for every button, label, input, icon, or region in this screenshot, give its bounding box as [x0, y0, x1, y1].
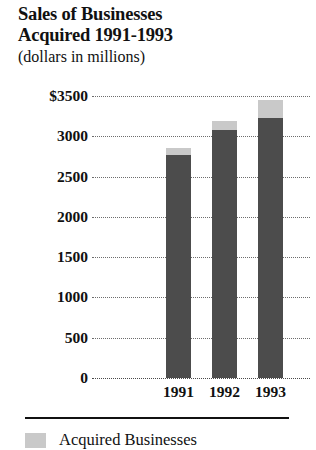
y-axis-tick: 0 — [0, 370, 88, 385]
footer-divider — [25, 417, 289, 419]
bar-segment-base-1992 — [212, 130, 237, 378]
y-axis-tick-label: 2500 — [10, 169, 88, 184]
y-axis-tick: 1500 — [0, 249, 88, 264]
y-axis-tick-label: 500 — [10, 330, 88, 345]
bar-segment-acquired-1993 — [258, 100, 283, 118]
x-axis-tick-label-1993: 1993 — [245, 383, 297, 400]
y-axis-tick-label: 1500 — [10, 249, 88, 264]
y-axis-tick: 3000 — [0, 128, 88, 143]
y-axis-tick-label: 3000 — [10, 128, 88, 143]
y-axis-tick: 2500 — [0, 169, 88, 184]
chart-plot-area: $350030002500200015001000500019911992199… — [0, 0, 316, 400]
y-axis-tick-label: 2000 — [10, 209, 88, 224]
y-axis-tick: 500 — [0, 330, 88, 345]
y-axis-tick: 2000 — [0, 209, 88, 224]
bar-segment-acquired-1991 — [166, 148, 191, 155]
legend-swatch-acquired-businesses — [25, 433, 46, 448]
gridline-0 — [92, 378, 310, 380]
bar-1993 — [258, 100, 283, 378]
bar-1991 — [166, 148, 191, 378]
bar-1992 — [212, 121, 237, 378]
y-axis-tick-label: 0 — [10, 370, 88, 385]
bar-segment-acquired-1992 — [212, 121, 237, 130]
bar-segment-base-1993 — [258, 118, 283, 378]
y-axis-tick-label: $3500 — [10, 88, 88, 103]
legend-label-acquired-businesses: Acquired Businesses — [59, 431, 197, 449]
y-axis-tick-label: 1000 — [10, 289, 88, 304]
y-axis-tick: 1000 — [0, 289, 88, 304]
y-axis-tick: $3500 — [0, 88, 88, 103]
x-axis-tick-label-1992: 1992 — [199, 383, 251, 400]
chart-legend: Acquired Businesses — [25, 431, 197, 449]
bar-segment-base-1991 — [166, 155, 191, 378]
gridline-3500 — [92, 96, 310, 98]
x-axis-tick-label-1991: 1991 — [153, 383, 205, 400]
